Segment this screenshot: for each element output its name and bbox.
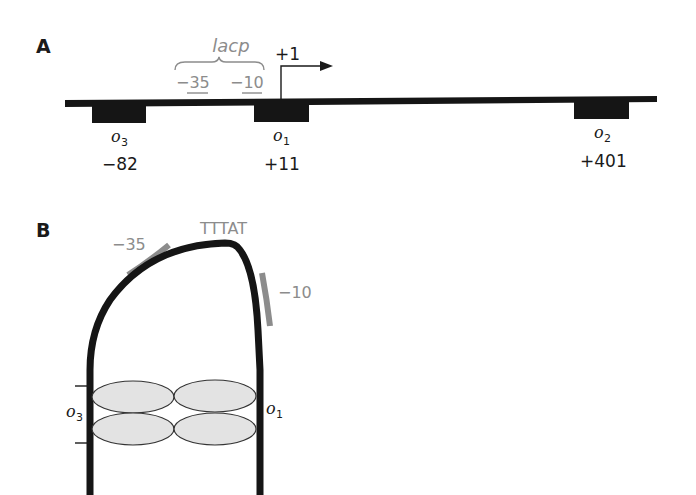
operator-o3-box bbox=[92, 102, 146, 123]
lac-repressor-tetramer bbox=[92, 380, 256, 445]
svg-text:3: 3 bbox=[121, 136, 128, 149]
transcription-start-arrow-icon bbox=[281, 66, 322, 101]
svg-text:o: o bbox=[66, 402, 76, 421]
repressor-subunit-2 bbox=[174, 380, 256, 412]
operator-o1-position: +11 bbox=[264, 154, 300, 174]
panel-b: B TTTAT −35 −10 o 3 o 1 bbox=[36, 219, 312, 495]
panel-a: A lacp −35 −10 +1 o 3 −82 o 1 +11 o 2 bbox=[36, 35, 657, 174]
svg-text:1: 1 bbox=[276, 408, 283, 421]
loop-o1-label: o 1 bbox=[266, 399, 283, 421]
dna-loop bbox=[90, 243, 260, 495]
promoter-minus10: −10 bbox=[230, 73, 264, 92]
svg-text:o: o bbox=[266, 399, 276, 418]
dna-line bbox=[65, 96, 657, 107]
promoter-brace bbox=[175, 57, 264, 70]
svg-text:2: 2 bbox=[604, 132, 611, 145]
repressor-subunit-3 bbox=[92, 413, 174, 445]
operator-o3-position: −82 bbox=[102, 154, 138, 174]
promoter-minus35: −35 bbox=[176, 73, 210, 92]
panel-b-label: B bbox=[36, 219, 50, 241]
repressor-subunit-4 bbox=[174, 413, 256, 445]
arrowhead-icon bbox=[320, 61, 333, 71]
lac-operon-diagram: A lacp −35 −10 +1 o 3 −82 o 1 +11 o 2 bbox=[0, 0, 696, 495]
operator-o2-position: +401 bbox=[580, 151, 627, 171]
loop-minus10-label: −10 bbox=[278, 283, 312, 302]
operator-o1-box bbox=[254, 101, 309, 122]
start-site-label: +1 bbox=[275, 44, 300, 64]
minus10-element bbox=[262, 273, 270, 326]
loop-o3-label: o 3 bbox=[66, 402, 83, 424]
svg-text:o: o bbox=[111, 127, 121, 146]
operator-o1-label: o 1 bbox=[273, 126, 290, 148]
panel-a-label: A bbox=[36, 35, 51, 57]
loop-minus35-label: −35 bbox=[112, 235, 146, 254]
svg-text:1: 1 bbox=[283, 135, 290, 148]
repressor-subunit-1 bbox=[92, 381, 174, 413]
tttat-sequence-label: TTTAT bbox=[199, 219, 247, 238]
svg-text:3: 3 bbox=[76, 411, 83, 424]
operator-o2-box bbox=[574, 98, 629, 119]
svg-text:o: o bbox=[594, 123, 604, 142]
operator-o3-label: o 3 bbox=[111, 127, 128, 149]
promoter-name: lacp bbox=[212, 35, 249, 56]
svg-text:o: o bbox=[273, 126, 283, 145]
operator-o2-label: o 2 bbox=[594, 123, 611, 145]
